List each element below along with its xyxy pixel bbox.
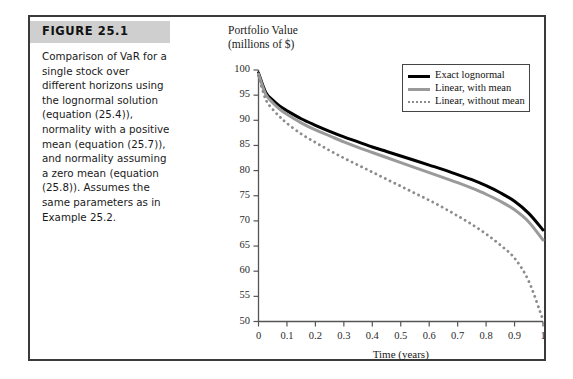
legend-item: Exact lognormal [408,68,524,81]
x-tick-label: 0.9 [499,330,531,341]
y-tick-label: 95 [216,88,250,99]
x-axis-ticks [259,322,544,327]
legend-label: Exact lognormal [435,68,505,81]
legend-item: Linear, without mean [408,94,524,107]
legend-item: Linear, with mean [408,81,524,94]
y-tick-label: 100 [216,63,250,74]
x-tick-label: 0.6 [413,330,445,341]
legend-swatch-dotted-gray-icon [408,95,430,107]
y-tick-label: 80 [216,164,250,175]
y-tick-label: 90 [216,113,250,124]
figure-caption-column: FIGURE 25.1 Comparison of VaR for a sing… [30,17,180,359]
x-tick-label: 0.8 [470,330,502,341]
figure-caption-text: Comparison of VaR for a single stock ove… [42,49,170,224]
y-tick-label: 85 [216,138,250,149]
y-axis-ticks [254,70,259,322]
x-tick-label: 1 [527,330,559,341]
y-tick-label: 70 [216,214,250,225]
figure-frame: FIGURE 25.1 Comparison of VaR for a sing… [28,15,546,361]
figure-number-label: FIGURE 25.1 [42,24,129,38]
legend-swatch-solid-gray-icon [408,82,430,94]
y-tick-label: 55 [216,289,250,300]
y-tick-label: 75 [216,189,250,200]
y-tick-label: 50 [216,315,250,326]
legend-label: Linear, with mean [435,81,511,94]
x-axis-title: Time (years) [341,348,461,360]
x-tick-label: 0.1 [271,330,303,341]
y-tick-label: 65 [216,239,250,250]
legend-label: Linear, without mean [435,94,525,107]
legend-swatch-solid-black-icon [408,69,430,81]
chart-plot-region: Portfolio Value (millions of $) 50556065… [180,17,544,359]
x-tick-label: 0.2 [299,330,331,341]
chart-legend: Exact lognormal Linear, with mean Linear… [402,64,530,112]
series-line-2 [259,76,544,320]
x-tick-label: 0.7 [442,330,474,341]
x-tick-label: 0 [243,330,275,341]
x-tick-label: 0.5 [385,330,417,341]
y-tick-label: 60 [216,264,250,275]
x-tick-label: 0.3 [328,330,360,341]
x-tick-label: 0.4 [356,330,388,341]
